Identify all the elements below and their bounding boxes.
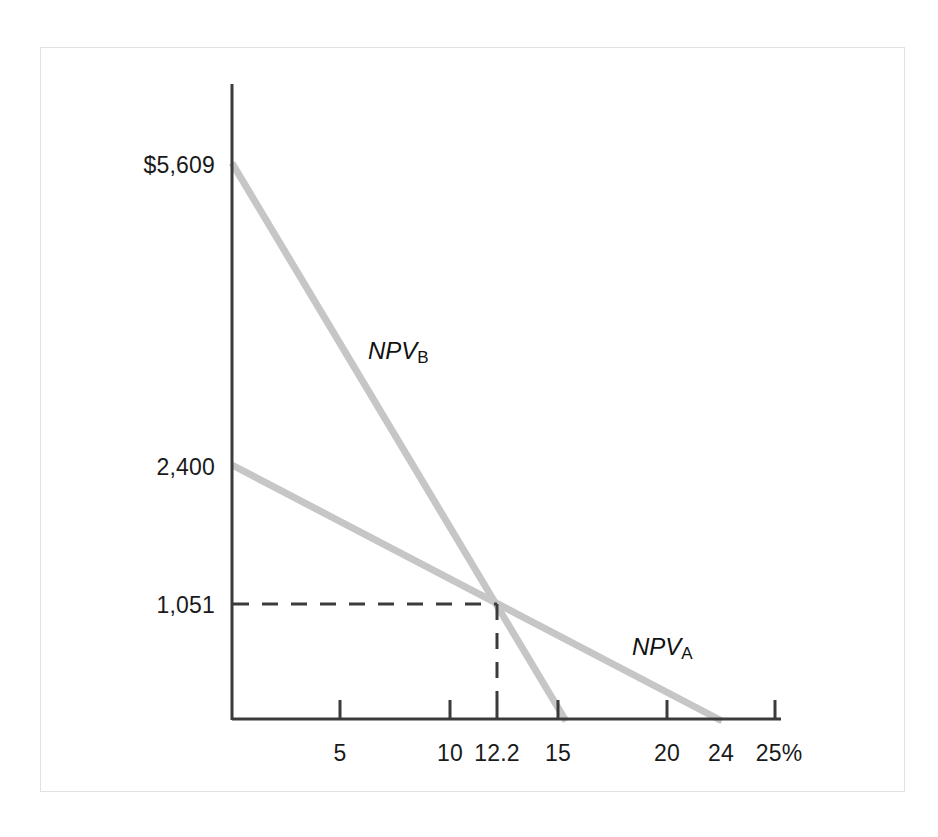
x-tick-label-5: 5 [310,740,370,767]
figure-container: $5,609 2,400 1,051 5 10 12.2 15 20 24 25… [0,0,938,837]
y-tick-label-5609: $5,609 [75,152,215,179]
x-tick-label-12-2: 12.2 [459,740,535,767]
y-tick-label-2400: 2,400 [75,454,215,481]
series-label-npv-a: NPVA [632,633,693,661]
npv-profile-chart [0,0,938,837]
npv-b-line [232,163,566,721]
x-tick-label-15: 15 [528,740,588,767]
x-tick-label-25-percent: 25% [741,740,817,767]
npv-a-line [232,465,722,721]
series-label-npv-b: NPVB [368,337,429,365]
x-tick-label-20: 20 [637,740,697,767]
series-label-npv-b-subscript: B [417,348,428,367]
series-label-npv-b-base: NPV [368,337,417,364]
series-label-npv-a-subscript: A [681,644,692,663]
y-tick-label-1051: 1,051 [75,592,215,619]
series-label-npv-a-base: NPV [632,633,681,660]
